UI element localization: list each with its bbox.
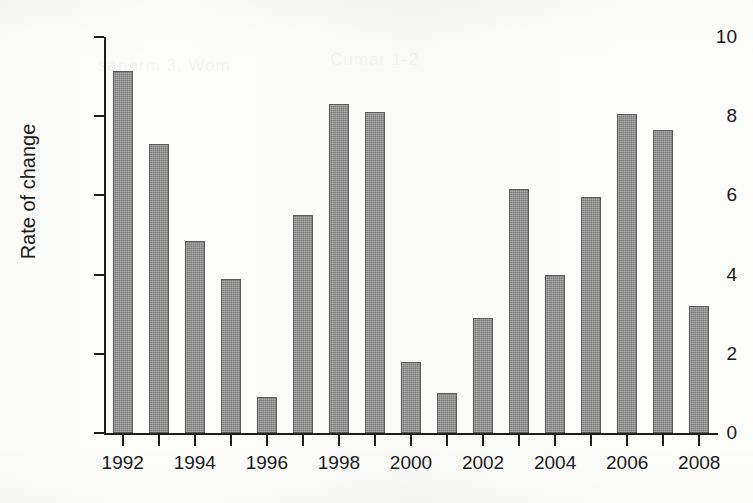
- y-axis-tick-label: 0: [726, 422, 737, 444]
- x-axis-tick: [374, 435, 376, 446]
- bar: [329, 104, 349, 433]
- x-axis-tick-label: 2002: [462, 452, 504, 474]
- x-axis-tick-label: 1998: [318, 452, 360, 474]
- bar: [689, 306, 709, 433]
- chart-figure: sanarm 3. Wom Cumar 1-2 Rate of change 0…: [0, 0, 753, 503]
- y-axis-tick-label: 8: [726, 105, 737, 127]
- x-axis-tick: [590, 435, 592, 446]
- y-axis-tick: [94, 36, 104, 38]
- x-axis-tick: [626, 435, 628, 446]
- bar: [473, 318, 493, 433]
- bar: [617, 114, 637, 433]
- x-axis-tick-label: 1992: [102, 452, 144, 474]
- bar: [149, 144, 169, 433]
- x-axis-tick: [698, 435, 700, 446]
- y-axis-tick: [94, 432, 104, 434]
- y-axis-tick: [94, 194, 104, 196]
- bar: [185, 241, 205, 433]
- x-axis-tick: [518, 435, 520, 446]
- bar: [509, 189, 529, 433]
- x-axis-tick: [230, 435, 232, 446]
- bar: [221, 279, 241, 433]
- x-axis-tick: [554, 435, 556, 446]
- bar: [401, 362, 421, 433]
- plot-area: Rate of change 0246810 19921994199619982…: [0, 0, 753, 503]
- x-axis-tick: [122, 435, 124, 446]
- x-axis-tick-label: 2000: [390, 452, 432, 474]
- x-axis-tick-label: 1996: [246, 452, 288, 474]
- y-axis-tick-label: 2: [726, 343, 737, 365]
- x-axis-tick: [410, 435, 412, 446]
- x-axis-tick: [482, 435, 484, 446]
- x-axis-tick-label: 2006: [606, 452, 648, 474]
- bar: [113, 71, 133, 433]
- x-axis-tick: [158, 435, 160, 446]
- y-axis-tick: [94, 274, 104, 276]
- bar: [257, 397, 277, 433]
- y-axis-tick-label: 4: [726, 264, 737, 286]
- bar: [365, 112, 385, 433]
- x-axis-tick-label: 2004: [534, 452, 576, 474]
- x-axis-tick-label: 1994: [174, 452, 216, 474]
- y-axis-tick: [94, 115, 104, 117]
- x-axis-tick: [662, 435, 664, 446]
- x-axis-tick: [302, 435, 304, 446]
- bar: [581, 197, 601, 433]
- y-axis-tick-label: 10: [716, 26, 737, 48]
- x-axis-tick: [338, 435, 340, 446]
- x-axis-tick: [266, 435, 268, 446]
- x-axis-tick-label: 2008: [678, 452, 720, 474]
- bar: [293, 215, 313, 433]
- y-axis-line: [104, 37, 106, 435]
- bar: [437, 393, 457, 433]
- x-axis-tick: [446, 435, 448, 446]
- y-axis-tick-label: 6: [726, 184, 737, 206]
- x-axis-tick: [194, 435, 196, 446]
- y-axis-title: Rate of change: [17, 92, 40, 292]
- y-axis-tick: [94, 353, 104, 355]
- bar: [545, 275, 565, 433]
- bar: [653, 130, 673, 433]
